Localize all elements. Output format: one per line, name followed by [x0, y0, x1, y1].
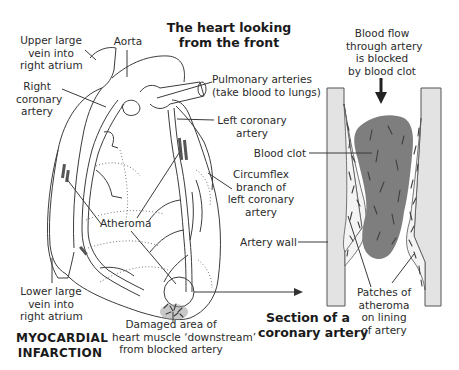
label-line: Lower large: [20, 285, 82, 298]
atheroma-mark: [79, 246, 88, 256]
blockage-circle: [164, 277, 194, 307]
artery-wall-right: [414, 88, 441, 306]
label-line: right atrium: [20, 310, 82, 323]
right-coronary-artery: [82, 100, 140, 296]
label-aorta: Aorta: [110, 35, 146, 48]
heart-illustration: [47, 47, 220, 320]
lad-branch: [148, 200, 180, 222]
label-line: atheroma: [352, 299, 416, 312]
label-line: Blood flow: [346, 27, 418, 40]
label-line: artery: [16, 105, 58, 118]
label-line: Upper large: [20, 34, 82, 47]
heart-front-title: The heart looking from the front: [146, 20, 312, 50]
title-line: from the front: [146, 35, 312, 50]
aortic-root: [122, 100, 140, 115]
blood-flow-arrow-icon: [375, 92, 387, 104]
label-line: (take blood to lungs): [212, 86, 312, 99]
label-line: is blocked: [346, 52, 418, 65]
title-line: INFARCTION: [16, 346, 104, 361]
label-line: left coronary: [226, 193, 296, 206]
title-line: coronary artery: [258, 325, 358, 340]
label-right-coronary-artery: Right coronary artery: [16, 80, 58, 118]
title-line: Section of a: [258, 310, 358, 325]
label-line: right atrium: [20, 59, 82, 72]
label-line: coronary: [16, 93, 58, 106]
circumflex-branch: [190, 192, 193, 240]
label-artery-wall: Artery wall: [240, 236, 296, 249]
label-patches-atheroma: Patches of atheroma on lining of artery: [352, 286, 416, 336]
label-line: Damaged area of: [112, 318, 230, 331]
label-line: branch of: [226, 181, 296, 194]
label-line: Right: [16, 80, 58, 93]
pulmonary-artery-shape: [140, 82, 204, 109]
label-line: vein into: [20, 47, 82, 60]
label-line: by blood clot: [346, 65, 418, 78]
label-lower-vein: Lower large vein into right atrium: [20, 285, 82, 323]
label-atheroma: Atheroma: [100, 217, 150, 230]
label-blood-clot: Blood clot: [248, 147, 306, 160]
label-line: through artery: [346, 40, 418, 53]
label-line: Left coronary: [216, 114, 288, 127]
rca-branch: [100, 267, 134, 276]
label-circumflex-branch: Circumflex branch of left coronary arter…: [226, 168, 296, 218]
section-title: Section of a coronary artery: [258, 310, 358, 340]
rca-branch: [96, 170, 122, 198]
arrow-to-section-icon: [294, 288, 303, 296]
posterior-vessel: [96, 163, 140, 176]
upper-vein-shape: [90, 47, 116, 88]
lower-vein-shape: [47, 150, 74, 278]
atheroma-mark: [61, 164, 66, 178]
label-line: artery: [216, 127, 288, 140]
label-damaged-area: Damaged area of heart muscle ‘downstream…: [112, 318, 230, 356]
label-line: Patches of: [352, 286, 416, 299]
label-line: vein into: [20, 298, 82, 311]
artery-section-illustration: [298, 78, 441, 306]
label-line: of artery: [352, 324, 416, 337]
posterior-vessel: [120, 150, 128, 220]
label-line: artery: [226, 206, 296, 219]
title-line: The heart looking: [146, 20, 312, 35]
lad-branch: [150, 230, 184, 252]
label-line: heart muscle ‘downstream’: [112, 331, 230, 344]
myocardial-infarction-title: MYOCARDIAL INFARCTION: [16, 331, 104, 361]
label-line: Circumflex: [226, 168, 296, 181]
label-line: from blocked artery: [112, 343, 230, 356]
title-line: MYOCARDIAL: [16, 331, 104, 346]
label-left-coronary-artery: Left coronary artery: [216, 114, 288, 139]
circumflex-branch: [196, 180, 202, 232]
label-blood-flow: Blood flow through artery is blocked by …: [346, 27, 418, 77]
posterior-vessel: [198, 260, 212, 288]
label-pulmonary-arteries: Pulmonary arteries (take blood to lungs): [212, 73, 312, 98]
aorta-shape: [112, 56, 184, 82]
label-upper-vein: Upper large vein into right atrium: [20, 34, 82, 72]
posterior-vessel: [88, 241, 160, 248]
label-line: on lining: [352, 311, 416, 324]
atheroma-mark: [183, 140, 188, 160]
label-line: Pulmonary arteries: [212, 73, 312, 86]
